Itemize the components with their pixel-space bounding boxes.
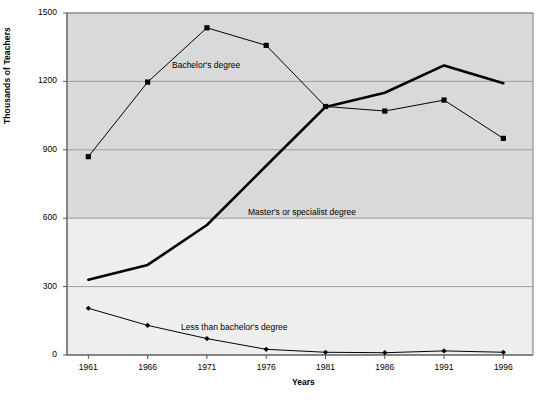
- x-tick-label-1981: 1981: [303, 362, 347, 372]
- y-tick-label-1200: 1200: [21, 75, 57, 85]
- x-tick-label-1971: 1971: [185, 362, 229, 372]
- series-label-0: Bachelor's degree: [172, 60, 240, 70]
- data-point-0-2: [204, 25, 209, 30]
- data-point-0-6: [441, 97, 446, 102]
- plot-area-lower-shade: [68, 218, 532, 354]
- y-tick-label-600: 600: [21, 212, 57, 222]
- data-point-0-5: [382, 108, 387, 113]
- data-point-0-0: [86, 154, 91, 159]
- y-tick-label-900: 900: [21, 144, 57, 154]
- x-tick-label-1996: 1996: [481, 362, 525, 372]
- x-tick-label-1991: 1991: [422, 362, 466, 372]
- line-chart: Thousands of Teachers Years 030060090012…: [0, 0, 555, 400]
- plot-canvas: [0, 0, 555, 400]
- y-axis-title: Thousands of Teachers: [2, 0, 12, 124]
- x-tick-label-1976: 1976: [244, 362, 288, 372]
- series-label-2: Less than bachelor's degree: [181, 322, 288, 332]
- x-tick-label-1961: 1961: [66, 362, 110, 372]
- data-point-0-3: [264, 43, 269, 48]
- y-tick-label-300: 300: [21, 281, 57, 291]
- y-tick-label-0: 0: [21, 349, 57, 359]
- x-axis-title: Years: [292, 377, 315, 387]
- series-label-1: Master's or specialist degree: [248, 207, 356, 217]
- x-tick-label-1986: 1986: [363, 362, 407, 372]
- data-point-0-7: [501, 136, 506, 141]
- y-tick-label-1500: 1500: [21, 7, 57, 17]
- x-tick-label-1966: 1966: [126, 362, 170, 372]
- data-point-0-1: [145, 79, 150, 84]
